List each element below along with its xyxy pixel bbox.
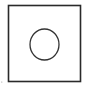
outer-square — [9, 6, 81, 82]
stray-dot — [1, 81, 2, 82]
diagram-canvas — [0, 0, 85, 88]
inner-circle — [30, 29, 59, 60]
diagram-svg — [0, 0, 85, 88]
